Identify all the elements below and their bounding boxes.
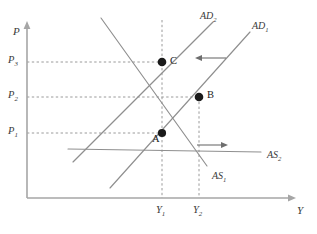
ad-as-diagram: P Y P3 P2 P1 Y1 Y2 AD2 AD1 AS2 AS1 A B C [0,0,317,234]
output-tick-y2-sub: 2 [199,210,202,217]
y-axis-arrow-icon [24,21,31,29]
x-axis-arrow-icon [288,195,296,202]
price-tick-p2: P2 [8,90,18,103]
equilibrium-dot-b[interactable] [195,93,204,102]
price-tick-p1: P1 [8,126,18,139]
curve-label-as2-base: AS [267,149,278,160]
curve-label-as1-base: AS [212,170,223,181]
curve-label-ad2: AD2 [200,11,217,24]
x-axis-label: Y [297,205,303,216]
axes [24,21,296,201]
price-tick-p1-sub: 1 [14,131,17,138]
ad-shift-arrow-head-icon [195,55,202,61]
curve-label-as2-sub: 2 [278,155,281,162]
output-tick-y1-sub: 1 [162,210,165,217]
price-tick-p3: P3 [8,55,18,68]
curve-label-as2: AS2 [267,150,281,163]
curve-label-ad1-sub: 1 [265,26,268,33]
y-axis-label: P [13,26,20,37]
curve-ad2[interactable] [73,22,213,162]
as-shift-arrow-head-icon [221,142,228,148]
curve-label-as1: AS1 [212,171,226,184]
price-tick-p2-sub: 2 [14,95,17,102]
output-tick-y1: Y1 [156,205,165,218]
curve-label-ad1-base: AD [252,20,265,31]
curve-label-ad2-base: AD [200,10,213,21]
equilibrium-label-c: C [170,56,177,67]
curve-label-as1-sub: 1 [223,176,226,183]
curve-label-ad2-sub: 2 [213,16,216,23]
equilibrium-dots [158,58,204,137]
output-tick-y2: Y2 [193,205,202,218]
price-tick-p3-sub: 3 [14,60,17,67]
guide-lines [27,20,201,198]
equilibrium-dot-c[interactable] [158,58,167,67]
curve-as2[interactable] [68,149,261,152]
curve-label-ad1: AD1 [252,21,269,34]
equilibrium-label-b: B [207,90,214,101]
shift-arrows [195,55,228,148]
curves [68,18,261,188]
diagram-canvas [0,0,317,234]
equilibrium-label-a: A [152,134,160,145]
